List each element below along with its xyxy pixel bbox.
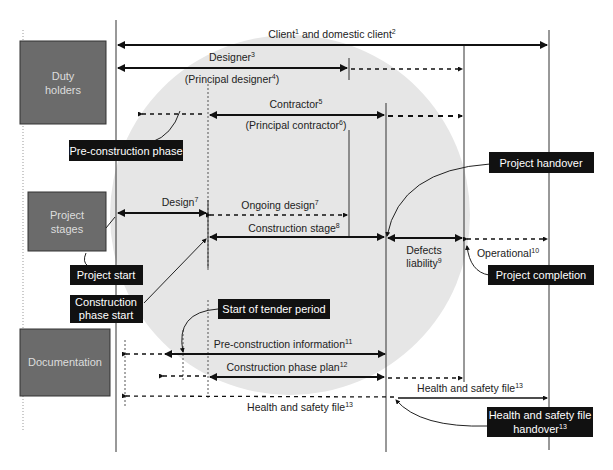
svg-text:Project: Project [50, 209, 84, 221]
operational-arrow: Operational10 [467, 239, 547, 259]
callout-project-handover: Project handover [489, 152, 594, 173]
svg-text:Design7: Design7 [162, 196, 199, 208]
callout-start-of-tender-period: Start of tender period [218, 299, 330, 319]
category-documentation: Documentation [20, 329, 110, 396]
category-duty-holders: Duty holders [20, 41, 106, 124]
svg-text:Pre-construction phase: Pre-construction phase [69, 145, 182, 157]
svg-text:Construction: Construction [75, 296, 137, 308]
svg-text:(Principal designer4): (Principal designer4) [185, 73, 279, 85]
svg-text:Client1 and domestic client2: Client1 and domestic client2 [268, 28, 396, 40]
callout-project-start: Project start [70, 265, 143, 285]
callout-project-completion: Project completion [488, 265, 594, 285]
callout-construction-phase-start: Construction phase start [70, 295, 143, 323]
svg-text:Contractor5: Contractor5 [270, 98, 323, 110]
svg-text:liability9: liability9 [406, 257, 442, 269]
svg-text:Project start: Project start [77, 269, 136, 281]
callout-hsf-handover: Health and safety file handover13 [487, 407, 593, 437]
svg-text:Operational10: Operational10 [477, 247, 539, 259]
cdm-duty-holders-diagram: Duty holders Project stages Documentatio… [0, 0, 613, 470]
svg-text:Construction stage8: Construction stage8 [248, 222, 340, 234]
svg-text:Defects: Defects [406, 244, 442, 256]
svg-text:handover13: handover13 [513, 423, 567, 435]
svg-text:stages: stages [51, 223, 84, 235]
svg-text:Start of tender period: Start of tender period [222, 303, 325, 315]
svg-text:Pre-construction information11: Pre-construction information11 [214, 338, 353, 350]
svg-text:Ongoing design7: Ongoing design7 [241, 199, 319, 211]
svg-text:phase start: phase start [79, 309, 133, 321]
svg-text:holders: holders [45, 84, 82, 96]
svg-text:Project handover: Project handover [499, 157, 582, 169]
svg-text:Construction phase plan12: Construction phase plan12 [226, 361, 347, 373]
svg-text:Health and safety file13: Health and safety file13 [247, 401, 353, 413]
svg-text:Duty: Duty [52, 70, 75, 82]
svg-text:Designer3: Designer3 [209, 51, 255, 63]
callout-pre-construction-phase: Pre-construction phase [69, 140, 183, 161]
svg-text:(Principal contractor6): (Principal contractor6) [246, 119, 347, 131]
svg-text:Health and safety file: Health and safety file [489, 409, 592, 421]
category-project-stages: Project stages [28, 192, 106, 251]
svg-text:Project completion: Project completion [496, 269, 587, 281]
svg-text:Documentation: Documentation [28, 356, 102, 368]
svg-text:Health and safety file13: Health and safety file13 [417, 382, 523, 394]
